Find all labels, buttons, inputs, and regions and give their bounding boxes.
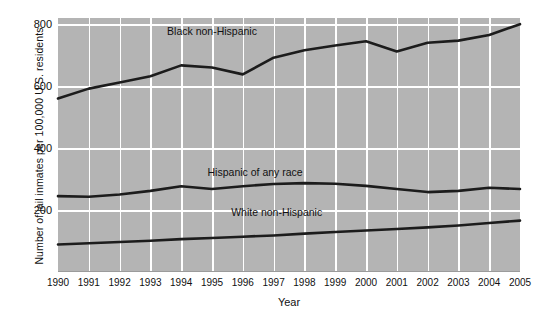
y-tick-label-800: 800 bbox=[14, 18, 52, 30]
y-tick-label-400: 400 bbox=[14, 142, 52, 154]
x-tick-label-2005: 2005 bbox=[509, 277, 531, 288]
x-tick-label-2003: 2003 bbox=[447, 277, 469, 288]
series-label-hispanic-of-any-race: Hispanic of any race bbox=[208, 166, 303, 178]
series-line-black-non-hispanic bbox=[58, 24, 520, 98]
x-tick-label-1999: 1999 bbox=[324, 277, 346, 288]
series-label-white-non-hispanic: White non-Hispanic bbox=[231, 206, 322, 218]
x-tick-label-2002: 2002 bbox=[416, 277, 438, 288]
series-line-white-non-hispanic bbox=[58, 221, 520, 245]
x-tick-label-1998: 1998 bbox=[293, 277, 315, 288]
series-lines bbox=[58, 18, 520, 272]
series-line-hispanic-of-any-race bbox=[58, 183, 520, 197]
x-tick-label-1994: 1994 bbox=[170, 277, 192, 288]
x-tick-label-1997: 1997 bbox=[262, 277, 284, 288]
x-tick-label-1993: 1993 bbox=[139, 277, 161, 288]
x-tick-label-1995: 1995 bbox=[201, 277, 223, 288]
axis-baseline bbox=[58, 271, 520, 272]
y-axis-ticks: 200400600800 bbox=[14, 0, 52, 319]
x-tick-label-1992: 1992 bbox=[108, 277, 130, 288]
x-tick-label-1991: 1991 bbox=[78, 277, 100, 288]
x-axis-label: Year bbox=[58, 296, 520, 308]
x-tick-label-2000: 2000 bbox=[355, 277, 377, 288]
gridline-x-2005 bbox=[520, 18, 522, 272]
series-label-black-non-hispanic: Black non-Hispanic bbox=[167, 25, 257, 37]
y-tick-label-600: 600 bbox=[14, 80, 52, 92]
x-tick-label-1996: 1996 bbox=[232, 277, 254, 288]
x-tick-label-1990: 1990 bbox=[47, 277, 69, 288]
x-tick-label-2004: 2004 bbox=[478, 277, 500, 288]
plot-area: Black non-HispanicHispanic of any raceWh… bbox=[58, 18, 520, 272]
y-tick-label-200: 200 bbox=[14, 204, 52, 216]
chart-figure: Number of jail inmates per 100,000 U.S. … bbox=[0, 0, 540, 319]
x-tick-label-2001: 2001 bbox=[386, 277, 408, 288]
